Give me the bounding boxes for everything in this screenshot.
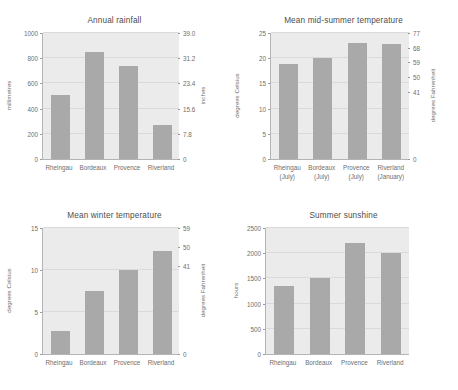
x-axis-tick-label-line: (July)	[270, 173, 305, 182]
y-axis-tick-label: 0	[262, 156, 266, 163]
y-axis-tick-label: 0	[34, 351, 38, 358]
secondary-y-axis-tick-label: 41	[183, 263, 190, 270]
y-axis-tick-mark	[40, 109, 42, 110]
y-axis-tick-mark	[40, 228, 42, 229]
x-axis-tick-label-line: Provence	[339, 164, 374, 173]
gridline	[43, 82, 179, 83]
secondary-y-axis-tick-label: 50	[183, 244, 190, 251]
bar	[345, 243, 365, 354]
secondary-y-axis-tick-mark	[408, 33, 410, 34]
y-axis-tick-label: 400	[27, 105, 38, 112]
y-axis-tick-label: 15	[31, 225, 38, 232]
secondary-y-axis-tick-label: 7.8	[183, 130, 192, 137]
secondary-y-axis-tick-label: 0	[183, 351, 187, 358]
bar	[85, 52, 104, 159]
secondary-y-axis-label: inches	[199, 61, 206, 131]
x-axis-tick-label-line: Rheingau	[265, 359, 301, 368]
y-axis-tick-mark	[268, 134, 270, 135]
x-axis-tick-label-line: Riverland	[144, 359, 178, 368]
y-axis-tick-label: 600	[27, 80, 38, 87]
secondary-y-axis-tick-label: 0	[413, 156, 417, 163]
secondary-y-axis-tick-label: 59	[183, 225, 190, 232]
x-axis-tick-label: Bordeaux(July)	[305, 164, 340, 181]
y-axis-tick-label: 20	[259, 55, 266, 62]
y-axis-tick-label: 0	[34, 156, 38, 163]
x-axis-tick-label: Bordeaux	[76, 359, 110, 368]
x-axis-tick-label-line: Provence	[337, 359, 373, 368]
x-axis-tick-label: Riverland(January)	[374, 164, 409, 181]
secondary-y-axis-tick-mark	[178, 83, 180, 84]
y-axis-label: hours	[232, 261, 239, 321]
secondary-y-axis-tick-mark	[178, 134, 180, 135]
secondary-y-axis-tick-mark	[178, 58, 180, 59]
x-axis-tick-label: Rheingau(July)	[270, 164, 305, 181]
x-axis-tick-label: Provence	[337, 359, 373, 368]
bar	[348, 43, 367, 159]
y-axis-tick-mark	[268, 33, 270, 34]
y-axis-tick-mark	[40, 270, 42, 271]
secondary-y-axis-tick-label: 31.2	[183, 55, 195, 62]
gridline	[271, 32, 409, 33]
x-axis-tick-label-line: Bordeaux	[301, 359, 337, 368]
bar	[85, 291, 104, 354]
y-axis-tick-mark	[263, 304, 265, 305]
bar	[382, 44, 401, 159]
secondary-y-axis-tick-mark	[178, 247, 180, 248]
y-axis-tick-mark	[263, 329, 265, 330]
y-axis-tick-label: 15	[259, 80, 266, 87]
x-axis-tick-label: Riverland	[372, 359, 408, 368]
x-axis-tick-label: Provence(July)	[339, 164, 374, 181]
plot-area	[42, 228, 179, 355]
y-axis-tick-mark	[40, 58, 42, 59]
x-axis-tick-label-line: (July)	[339, 173, 374, 182]
bar	[274, 286, 294, 354]
y-axis-tick-mark	[263, 253, 265, 254]
y-axis-tick-label: 2000	[247, 250, 261, 257]
chart-panel-top-left: Annual rainfall02004006008001000millimet…	[0, 0, 229, 195]
secondary-y-axis-tick-mark	[178, 159, 180, 160]
y-axis-label: millimetres	[5, 66, 12, 126]
x-axis-tick-label: Provence	[110, 359, 144, 368]
x-axis-tick-label: Bordeaux	[301, 359, 337, 368]
secondary-y-axis-tick-label: 39.0	[183, 30, 195, 37]
secondary-y-axis-tick-label: 68	[413, 44, 420, 51]
chart-title: Mean winter temperature	[0, 211, 229, 220]
bar	[119, 270, 138, 354]
y-axis-label: degrees Celsius	[5, 261, 12, 321]
x-axis-tick-label-line: Provence	[110, 164, 144, 173]
secondary-y-axis-tick-mark	[178, 33, 180, 34]
bar	[51, 331, 70, 354]
chart-grid: Annual rainfall02004006008001000millimet…	[0, 0, 458, 390]
x-axis-tick-label-line: Riverland	[144, 164, 178, 173]
plot-area	[42, 33, 179, 160]
secondary-y-axis-tick-label: 50	[413, 74, 420, 81]
secondary-y-axis-tick-mark	[408, 92, 410, 93]
y-axis-tick-label: 1000	[247, 300, 261, 307]
chart-panel-bottom-left: Mean winter temperature051015degrees Cel…	[0, 195, 229, 390]
bar	[279, 64, 298, 159]
y-axis-tick-label: 25	[259, 30, 266, 37]
x-axis-tick-label-line: Rheingau	[42, 164, 76, 173]
chart-panel-bottom-right: Summer sunshine05001000150020002500hours…	[229, 195, 458, 390]
x-axis-tick-label-line: Rheingau	[42, 359, 76, 368]
x-axis-tick-label: Bordeaux	[76, 164, 110, 173]
gridline	[43, 32, 179, 33]
y-axis-tick-label: 1500	[247, 275, 261, 282]
chart-title: Mean mid-summer temperature	[229, 16, 458, 25]
y-axis-tick-mark	[40, 159, 42, 160]
x-axis-tick-label: Rheingau	[42, 164, 76, 173]
y-axis-tick-label: 1000	[24, 30, 38, 37]
y-axis-tick-label: 800	[27, 55, 38, 62]
x-axis-tick-label-line: (January)	[374, 173, 409, 182]
y-axis-tick-label: 500	[250, 325, 261, 332]
secondary-y-axis-tick-label: 59	[413, 59, 420, 66]
y-axis-tick-mark	[263, 278, 265, 279]
x-axis-tick-label-line: Bordeaux	[305, 164, 340, 173]
plot-area	[265, 228, 409, 355]
secondary-y-axis-tick-mark	[408, 159, 410, 160]
x-axis-tick-label-line: Bordeaux	[76, 359, 110, 368]
x-axis-tick-label-line: Provence	[110, 359, 144, 368]
y-axis-tick-label: 2500	[247, 225, 261, 232]
x-axis-tick-label: Rheingau	[265, 359, 301, 368]
x-axis-tick-label: Riverland	[144, 164, 178, 173]
